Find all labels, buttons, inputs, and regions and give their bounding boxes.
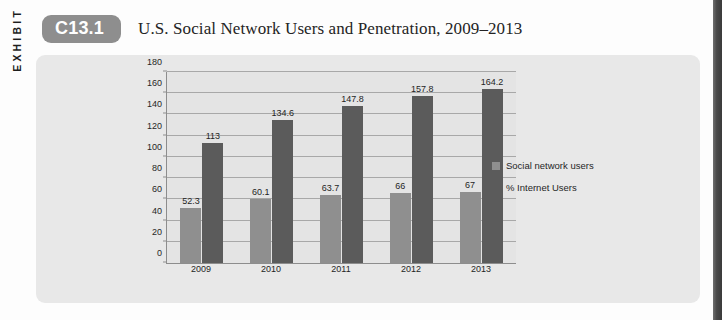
exhibit-number-badge: C13.1 [42,15,121,43]
bar-value-label: 52.3 [182,196,200,206]
legend-item: % Internet Users [492,182,594,193]
x-axis-tick-label: 2013 [451,264,511,274]
y-axis-tick-label: 80 [152,163,162,173]
legend-swatch-icon [492,162,500,170]
exhibit-side-label-text: EXHIBIT [11,8,23,72]
legend-swatch-icon [492,184,500,192]
legend-label: % Internet Users [506,182,577,193]
x-axis-tick-label: 2009 [171,264,231,274]
bar-value-label: 164.2 [481,77,504,87]
y-axis-tick-label: 60 [152,184,162,194]
bar-value-label: 67 [465,180,475,190]
y-axis-tick-label: 40 [152,206,162,216]
y-axis-tick-label: 120 [147,121,162,131]
bar-group: 63.7147.8 [311,72,371,263]
y-axis-tick-label: 180 [147,57,162,67]
page-edge-shadow [713,0,722,320]
y-axis-tick-label: 20 [152,227,162,237]
bar-groups: 52.311360.1134.663.7147.866157.867164.2 [167,72,516,263]
bar-value-label: 134.6 [271,108,294,118]
legend-item: Social network users [492,160,594,171]
bar: 134.6 [272,120,293,263]
y-axis-tick-label: 160 [147,78,162,88]
bar: 157.8 [412,96,433,263]
bar-value-label: 113 [206,131,220,141]
bar: 147.8 [342,106,363,263]
bar: 63.7 [320,195,341,263]
exhibit-side-label: EXHIBIT [4,8,30,158]
x-axis: 20092010201120122013 [166,264,516,282]
x-axis-tick-label: 2011 [311,264,371,274]
exhibit-title: U.S. Social Network Users and Penetratio… [138,19,522,39]
x-axis-tick-label: 2012 [381,264,441,274]
bar: 66 [390,193,411,263]
chart-panel: 020406080100120140160180 52.311360.1134.… [36,55,700,303]
page-canvas: EXHIBIT C13.1 U.S. Social Network Users … [0,0,722,320]
bar-group: 60.1134.6 [242,72,302,263]
bar-chart: 020406080100120140160180 52.311360.1134.… [122,64,522,292]
y-axis-tick-label: 140 [147,99,162,109]
bar-group: 66157.8 [381,72,441,263]
bar-group: 52.3113 [172,72,232,263]
bar-value-label: 147.8 [341,94,364,104]
bar: 113 [202,143,223,263]
bar-value-label: 63.7 [322,183,340,193]
exhibit-header: C13.1 U.S. Social Network Users and Pene… [42,14,522,44]
bar: 60.1 [250,199,271,263]
bar-value-label: 60.1 [252,187,270,197]
legend-label: Social network users [506,160,594,171]
bar-value-label: 66 [395,181,405,191]
bar-value-label: 157.8 [411,84,434,94]
x-axis-tick-label: 2010 [241,264,301,274]
y-axis-tick-label: 100 [147,142,162,152]
bar: 67 [460,192,481,263]
chart-legend: Social network users% Internet Users [492,160,594,204]
bar: 52.3 [180,208,201,263]
y-axis-tick-label: 0 [157,248,162,258]
plot-area: 020406080100120140160180 52.311360.1134.… [166,72,516,264]
